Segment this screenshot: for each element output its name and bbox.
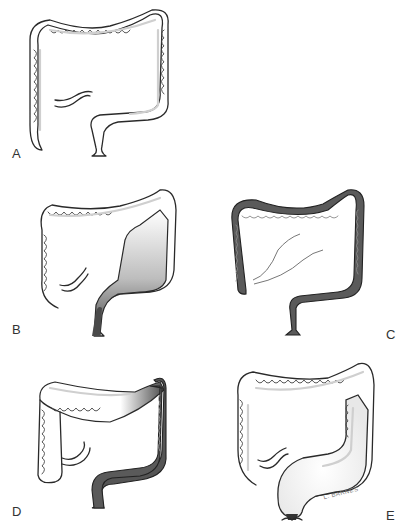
- panel-label-e: E: [386, 508, 395, 523]
- panel-b: B: [0, 180, 208, 350]
- panel-label-c: C: [386, 327, 395, 342]
- panel-d: D: [0, 350, 208, 529]
- colon-panel-e-illustration: [208, 350, 408, 529]
- panel-label-b: B: [12, 322, 21, 337]
- panel-c: C: [208, 180, 408, 350]
- colon-normal-illustration: [0, 0, 200, 180]
- panel-label-d: D: [12, 504, 21, 519]
- colon-panel-b-illustration: [0, 180, 208, 350]
- panel-e: L. BARNES E: [208, 350, 408, 529]
- panel-a: A: [0, 0, 200, 180]
- colon-panel-d-illustration: [0, 350, 208, 529]
- colon-panel-c-illustration: [208, 180, 408, 350]
- panel-label-a: A: [12, 146, 21, 161]
